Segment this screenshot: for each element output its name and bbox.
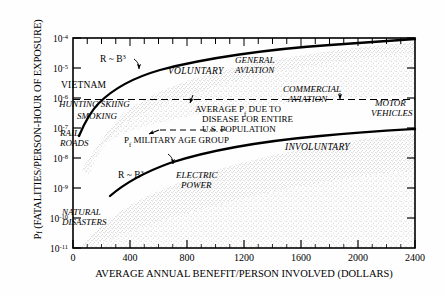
x-tick-label: 2400 [405,252,425,263]
y-tick-label: 10-9 [53,182,68,194]
annotation-military-age-group: Pf MILITARY AGE GROUP [124,135,229,148]
annotation-hunting-skiing: HUNTING SKIING [58,99,130,109]
annotation-disease-line3: U.S. POPULATION [202,124,276,134]
x-tick-label: 0 [71,252,76,263]
x-axis-title: AVERAGE ANNUAL BENEFIT/PERSON INVOLVED (… [73,268,415,279]
involuntary-band [78,133,415,248]
annotation-r-b3-lower: R ~ B3 [118,169,144,181]
y-tick-label: 10-4 [53,32,69,44]
x-tick-label: 800 [180,252,195,263]
annotation-disease-line2: DISEASE FOR ENTIRE [202,114,294,124]
annotation-natural-disasters-line1: NATURAL [61,207,101,217]
y-axis-title: Pf (FATALITIES/PERSON-HOUR OF EXPOSURE) [32,0,45,263]
annotation-commercial-aviation-line2: AVIATION [287,94,328,104]
annotation-vietnam: VIETNAM [61,80,107,90]
annotation-electric-power-line1: ELECTRIC [175,170,219,180]
annotation-voluntary: VOLUNTARY [168,66,225,76]
annotation-motor-vehicles-line1: MOTOR [374,98,406,108]
risk-benefit-chart: 10-4 10-5 10-6 10-7 10-8 10-9 10-10 10-1… [0,0,445,295]
x-axis-ticks-top [87,38,401,46]
annotation-roads: ROADS [59,138,89,148]
annotation-r-b3-upper: R ~ B3 [100,53,126,65]
x-tick-label: 2000 [348,252,368,263]
x-tick-label: 1600 [291,252,311,263]
annotation-electric-power-line2: POWER [180,180,212,190]
annotation-rail: RAIL [59,128,79,138]
annotation-motor-vehicles-line2: VEHICLES [371,108,413,118]
annotation-natural-disasters-line2: DISASTERS [61,217,107,227]
x-tick-label: 400 [123,252,138,263]
x-tick-labels: 0 400 800 1200 1600 2000 2400 [71,252,426,263]
annotation-involuntary: INVOLUNTARY [284,142,351,152]
y-tick-label: 10-8 [53,152,68,164]
y-tick-label: 10-5 [53,62,68,74]
y-tick-label: 10-11 [50,242,68,254]
annotation-general-aviation-line2: AVIATION [234,65,275,75]
x-tick-label: 1200 [234,252,254,263]
chart-canvas: 10-4 10-5 10-6 10-7 10-8 10-9 10-10 10-1… [0,0,445,295]
annotation-smoking: SMOKING [77,111,117,121]
annotation-commercial-aviation-line1: COMMERCIAL [283,84,341,94]
annotation-general-aviation-line1: GENERAL [235,55,275,65]
